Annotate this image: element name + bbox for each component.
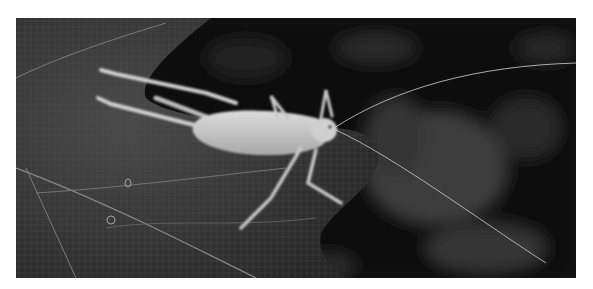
photograph [16, 18, 576, 278]
photo-canvas [16, 18, 576, 278]
